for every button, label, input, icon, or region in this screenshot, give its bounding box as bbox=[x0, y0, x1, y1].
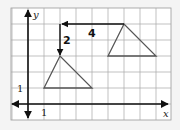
diagram-canvas: y x 1 1 4 2 bbox=[0, 0, 180, 130]
y-tick-label-1: 1 bbox=[17, 83, 23, 94]
x-axis-label: x bbox=[163, 108, 169, 119]
x-tick-label-1: 1 bbox=[41, 107, 47, 118]
vertical-distance-label: 2 bbox=[63, 34, 71, 47]
y-axis-label: y bbox=[32, 9, 39, 20]
coordinate-diagram: y x 1 1 4 2 bbox=[0, 0, 180, 130]
horizontal-distance-label: 4 bbox=[88, 27, 96, 40]
